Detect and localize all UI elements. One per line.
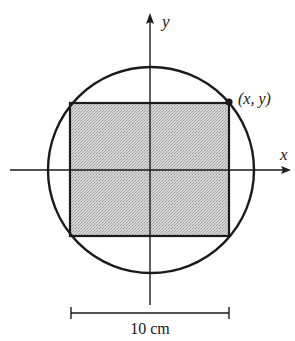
inscribed-rectangle-diagram: y x (x, y) 10 cm bbox=[0, 0, 295, 341]
dimension-label: 10 cm bbox=[130, 320, 170, 337]
point-marker bbox=[225, 98, 232, 105]
x-axis-label: x bbox=[279, 145, 288, 164]
y-axis-label: y bbox=[160, 12, 170, 31]
point-label: (x, y) bbox=[238, 90, 271, 108]
